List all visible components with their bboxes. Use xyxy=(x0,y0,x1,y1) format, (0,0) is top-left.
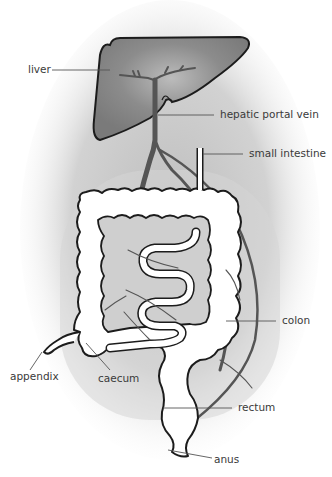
label-colon: colon xyxy=(282,314,310,326)
hepatic-portal-diagram: liver hepatic portal vein small intestin… xyxy=(0,0,332,477)
leader-appendix xyxy=(30,352,42,370)
label-anus: anus xyxy=(214,453,239,465)
label-hepatic-portal-vein: hepatic portal vein xyxy=(220,108,319,120)
label-small-intestine: small intestine xyxy=(249,147,326,159)
label-rectum: rectum xyxy=(238,401,275,413)
label-appendix: appendix xyxy=(10,370,59,382)
label-caecum: caecum xyxy=(98,372,139,384)
label-liver: liver xyxy=(28,63,52,75)
